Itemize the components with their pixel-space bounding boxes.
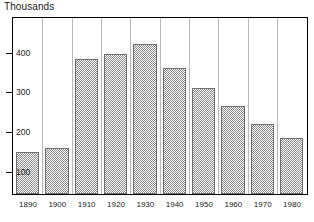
bar-1940 [163, 68, 186, 194]
y-tick-label: 100 [16, 167, 30, 177]
bar-1950 [192, 88, 215, 194]
gridline-vertical [248, 18, 249, 194]
bar-1970 [251, 124, 274, 194]
x-tick-label-1980: 1980 [283, 200, 301, 209]
y-tick-label: 300 [16, 87, 30, 97]
y-tick-label: 200 [16, 127, 30, 137]
x-tick-label-1900: 1900 [48, 200, 66, 209]
gridline-vertical [72, 18, 73, 194]
plot-area [12, 17, 308, 195]
gridline-vertical [160, 18, 161, 194]
y-tick [6, 92, 13, 93]
gridline-vertical [130, 18, 131, 194]
bar-1980 [280, 138, 303, 194]
y-tick-label: 400 [16, 48, 30, 58]
y-tick [6, 172, 13, 173]
gridline-vertical [189, 18, 190, 194]
gridline-vertical [42, 18, 43, 194]
gridline-vertical [101, 18, 102, 194]
x-tick-label-1890: 1890 [19, 200, 37, 209]
gridline-vertical [277, 18, 278, 194]
bar-1910 [75, 59, 98, 194]
x-tick-label-1920: 1920 [107, 200, 125, 209]
x-tick-label-1910: 1910 [78, 200, 96, 209]
bar-1900 [45, 148, 68, 194]
y-tick [6, 132, 13, 133]
bar-1920 [104, 54, 127, 194]
x-tick-label-1940: 1940 [166, 200, 184, 209]
bar-1960 [221, 106, 244, 194]
chart-title: Thousands [4, 1, 54, 12]
x-tick-label-1970: 1970 [254, 200, 272, 209]
bar-chart: Thousands 100200300400 18901900191019201… [0, 0, 314, 222]
x-tick-label-1950: 1950 [195, 200, 213, 209]
x-tick-label-1960: 1960 [224, 200, 242, 209]
x-tick-label-1930: 1930 [136, 200, 154, 209]
bar-1930 [133, 44, 156, 194]
gridline-vertical [218, 18, 219, 194]
y-tick [6, 53, 13, 54]
